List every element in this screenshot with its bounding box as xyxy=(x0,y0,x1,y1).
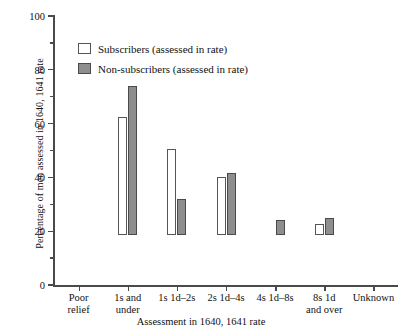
bar xyxy=(227,173,236,235)
bar xyxy=(167,149,176,235)
x-tick xyxy=(324,286,325,291)
legend-label: Non-subscribers (assessed in rate) xyxy=(98,63,248,75)
x-category-label: 2s 1d–4s xyxy=(207,292,244,304)
x-category-label: 1s 1d–2s xyxy=(158,292,195,304)
legend-item: Subscribers (assessed in rate) xyxy=(78,40,248,57)
bar xyxy=(128,86,137,235)
x-category-label: Poor relief xyxy=(67,292,89,315)
bar xyxy=(276,220,285,235)
bar-chart: Percentage of men assessed in 1640, 1641… xyxy=(0,0,402,336)
x-tick xyxy=(128,286,129,291)
legend-item: Non-subscribers (assessed in rate) xyxy=(78,60,248,77)
bar xyxy=(315,224,324,235)
bar xyxy=(177,199,186,235)
x-axis-title: Assessment in 1640, 1641 rate xyxy=(0,316,402,327)
x-tick xyxy=(226,286,227,291)
chart-legend: Subscribers (assessed in rate)Non-subscr… xyxy=(78,40,248,80)
x-category-label: Unknown xyxy=(353,292,394,304)
x-tick xyxy=(79,286,80,291)
x-category-label: 8s 1d and over xyxy=(306,292,342,315)
bar xyxy=(118,117,127,235)
legend-swatch-nonsubscriber xyxy=(78,63,91,74)
x-tick xyxy=(373,286,374,291)
bar xyxy=(325,218,334,235)
legend-swatch-subscriber xyxy=(78,43,91,54)
x-category-label: 4s 1d–8s xyxy=(257,292,294,304)
legend-label: Subscribers (assessed in rate) xyxy=(98,43,227,55)
bar xyxy=(217,177,226,235)
x-tick xyxy=(177,286,178,291)
x-category-label: 1s and under xyxy=(114,292,141,315)
x-tick xyxy=(275,286,276,291)
